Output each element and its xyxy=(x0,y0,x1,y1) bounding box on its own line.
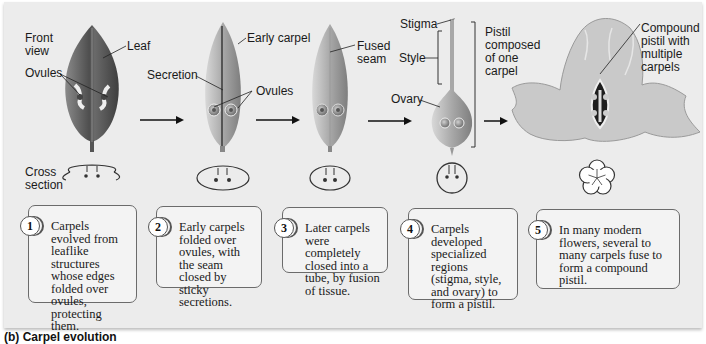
step-text-3: Later carpels were completely closed int… xyxy=(305,222,381,297)
cross-section-4 xyxy=(437,163,467,193)
step-number-2: 2 xyxy=(148,217,168,237)
label-ovules-1: Ovules xyxy=(25,67,62,80)
label-stigma: Stigma xyxy=(400,18,437,31)
step-box-3: 3 Later carpels were completely closed i… xyxy=(282,207,388,273)
step-number-3: 3 xyxy=(274,218,294,238)
label-pistil-one-carpel: Pistil composed of one carpel xyxy=(485,26,540,78)
label-style: Style xyxy=(399,52,426,65)
label-early-carpel: Early carpel xyxy=(247,32,310,45)
step-number-5: 5 xyxy=(528,220,548,240)
label-ovary: Ovary xyxy=(391,93,423,106)
step-text-2: Early carpels folded over ovules, with t… xyxy=(179,221,255,309)
label-compound-pistil: Compound pistil with multiple carpels xyxy=(641,22,700,74)
early-carpel-illustration xyxy=(205,22,241,152)
step-text-5: In many modern flowers, several to many … xyxy=(559,224,673,287)
cross-section-2 xyxy=(197,166,249,190)
figure-caption: (b) Carpel evolution xyxy=(4,330,117,344)
step-box-1: 1 Carpels evolved from leaflike structur… xyxy=(28,205,137,303)
step-text-4: Carpels developed specialized regions (s… xyxy=(431,223,511,311)
cross-section-1 xyxy=(68,165,115,172)
step-text-1: Carpels evolved from leaflike structures… xyxy=(51,220,130,333)
label-ovules-2: Ovules xyxy=(256,85,293,98)
cross-section-3 xyxy=(310,166,350,190)
label-leaf: Leaf xyxy=(127,40,150,53)
step-number-4: 4 xyxy=(400,219,420,239)
label-front-view: Front view xyxy=(25,32,53,58)
label-cross-section: Cross section xyxy=(25,166,63,192)
step-number-1: 1 xyxy=(20,216,40,236)
label-fused-seam: Fused seam xyxy=(357,40,390,66)
fused-carpel-illustration xyxy=(312,24,348,152)
step-box-4: 4 Carpels developed specialized regions … xyxy=(408,208,518,300)
step-box-5: 5 In many modern flowers, several to man… xyxy=(536,209,680,289)
label-secretion: Secretion xyxy=(147,69,198,82)
cross-section-5 xyxy=(580,160,615,194)
step-box-2: 2 Early carpels folded over ovules, with… xyxy=(156,206,262,288)
